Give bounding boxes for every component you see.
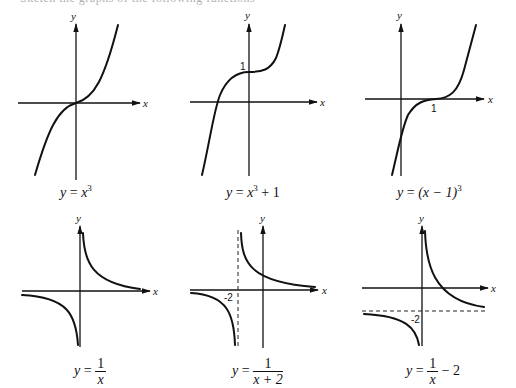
fraction-denominator: x + 2: [253, 372, 283, 387]
reciprocal-lower-branch: [22, 295, 78, 345]
caption-fraction: 1 x + 2: [253, 356, 283, 387]
fraction-denominator: x: [427, 372, 438, 387]
caption-equals: =: [84, 363, 92, 378]
x-axis-label: x: [490, 282, 496, 294]
x-axis-label: x: [321, 284, 327, 296]
y-axis-label: y: [418, 212, 424, 224]
graph-shifted-cube: x y 1: [365, 9, 493, 176]
caption-lhs: y: [397, 185, 403, 200]
fraction-numerator: 1: [427, 356, 438, 372]
y-axis-label: y: [244, 9, 250, 21]
caption-reciprocal: y = 1 x: [74, 356, 106, 387]
caption-rhs: (x − 1): [418, 185, 457, 200]
cube-plus-1-curve: [202, 25, 285, 175]
caption-reciprocal-shift-down: y = 1 x − 2: [406, 356, 460, 387]
caption-equals: =: [416, 363, 424, 378]
fraction-numerator: 1: [253, 356, 283, 372]
reciprocal-upper-branch: [425, 231, 484, 307]
caption-fraction: 1 x: [95, 356, 106, 387]
x-axis-label: x: [487, 93, 493, 105]
caption-shifted-cube: y = (x − 1)3: [397, 183, 462, 201]
y-axis-label: y: [259, 212, 265, 224]
caption-cube-plus-1: y = x3 + 1: [226, 183, 280, 201]
caption-equals: =: [407, 185, 415, 200]
caption-equals: =: [236, 185, 244, 200]
caption-tail: + 1: [258, 185, 280, 200]
reciprocal-upper-branch: [241, 233, 315, 287]
reciprocal-upper-branch: [83, 233, 140, 289]
caption-reciprocal-shift-left: y = 1 x + 2: [232, 356, 283, 387]
caption-lhs: y: [74, 363, 80, 378]
x-axis-label: x: [319, 96, 325, 108]
caption-lhs: y: [226, 185, 232, 200]
fraction-denominator: x: [95, 372, 106, 387]
caption-exponent: 3: [457, 183, 462, 193]
x-axis-label: x: [142, 97, 148, 109]
y-axis-label: y: [396, 9, 402, 21]
graph-reciprocal-shift-left: x y -2: [190, 212, 327, 348]
caption-fraction: 1 x: [427, 356, 438, 387]
caption-equals: =: [242, 363, 250, 378]
x-axis-label: x: [152, 285, 158, 297]
graph-reciprocal: x y: [22, 212, 158, 347]
caption-cube: y = x3: [60, 183, 92, 201]
y-axis-label: y: [70, 10, 76, 22]
asymptote-label: -2: [411, 314, 420, 325]
asymptote-label: -2: [224, 292, 233, 303]
x-intercept-label: 1: [431, 103, 437, 114]
graph-reciprocal-shift-down: x y -2: [362, 212, 496, 346]
fraction-numerator: 1: [95, 356, 106, 372]
caption-lhs: y: [60, 185, 66, 200]
shifted-cube-curve: [392, 25, 476, 175]
graph-cube: x y: [18, 10, 148, 180]
y-axis-label: y: [75, 212, 81, 224]
caption-lhs: y: [232, 363, 238, 378]
y-intercept-label: 1: [240, 61, 246, 72]
caption-equals: =: [70, 185, 78, 200]
caption-lhs: y: [406, 363, 412, 378]
graph-cube-plus-1: x y 1: [190, 9, 325, 176]
caption-tail: − 2: [438, 363, 460, 378]
caption-exponent: 3: [87, 183, 92, 193]
